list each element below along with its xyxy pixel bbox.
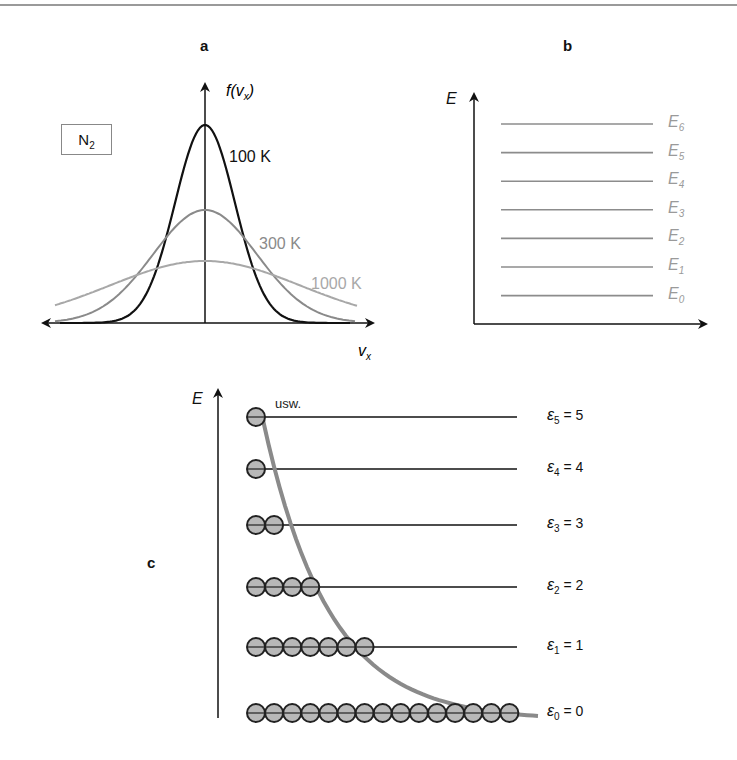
energy-level-label: E0: [668, 285, 684, 303]
panel-a-x-axis-label: vx: [358, 342, 371, 360]
panel-c-letter: c: [147, 554, 155, 571]
boltzmann-distribution-curve: [263, 420, 538, 716]
panel-b-letter: b: [563, 37, 572, 54]
panel-c-y-axis-label: E: [192, 390, 203, 408]
curve-label-100k: 100 K: [229, 148, 271, 166]
energy-level-label: E2: [668, 227, 684, 245]
level-energy-label: ε1 = 1: [547, 636, 583, 654]
panel-a-y-axis-label: f(vx): [226, 82, 254, 100]
energy-level-label: E4: [668, 170, 684, 188]
curve-label-1000k: 1000 K: [311, 275, 362, 293]
panel-a-letter: a: [200, 37, 208, 54]
panel-c-particles: [247, 408, 518, 722]
level-energy-label: ε3 = 3: [547, 514, 583, 532]
curve-label-300k: 300 K: [259, 235, 301, 253]
figure-canvas: [0, 0, 737, 760]
panel-c-levels: [248, 417, 517, 713]
energy-level-label: E1: [668, 256, 684, 274]
etc-label: usw.: [275, 396, 301, 411]
energy-level-label: E5: [668, 142, 684, 160]
energy-level-label: E3: [668, 199, 684, 217]
panel-b-energy-levels: [501, 124, 653, 296]
level-energy-label: ε5 = 5: [547, 406, 583, 424]
panel-b-y-axis-label: E: [446, 90, 457, 108]
species-box-n2: N2: [61, 124, 112, 155]
energy-level-label: E6: [668, 113, 684, 131]
level-energy-label: ε2 = 2: [547, 576, 583, 594]
level-energy-label: ε4 = 4: [547, 458, 583, 476]
level-energy-label: ε0 = 0: [547, 702, 583, 720]
